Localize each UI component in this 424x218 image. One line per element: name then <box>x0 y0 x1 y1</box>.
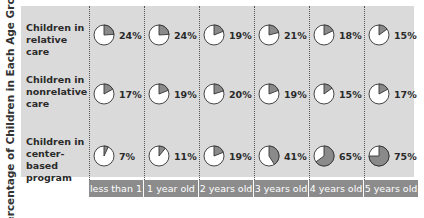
pie-icon <box>258 145 280 167</box>
pie-cell: 11% <box>144 141 199 171</box>
pie-icon <box>313 145 335 167</box>
percent-label: 65% <box>339 151 362 162</box>
pie-cell: 41% <box>254 141 309 171</box>
x-axis-label: 2 years old <box>199 180 253 197</box>
row-label: Children innonrelativecare <box>26 74 90 110</box>
percent-label: 20% <box>229 89 252 100</box>
pie-icon <box>203 24 225 46</box>
pie-icon <box>148 83 170 105</box>
percent-label: 21% <box>284 30 307 41</box>
pie-cell: 24% <box>89 20 144 50</box>
percent-label: 24% <box>119 30 142 41</box>
percent-label: 17% <box>394 89 417 100</box>
percent-label: 19% <box>284 89 307 100</box>
pie-icon <box>93 24 115 46</box>
pie-icon <box>368 83 390 105</box>
pie-icon <box>148 145 170 167</box>
pie-icon <box>258 24 280 46</box>
percent-label: 24% <box>174 30 197 41</box>
pie-cell: 20% <box>199 79 254 109</box>
percent-label: 19% <box>229 30 252 41</box>
pie-cell: 19% <box>254 79 309 109</box>
pie-cell: 75% <box>364 141 419 171</box>
percent-label: 75% <box>394 151 417 162</box>
pie-icon <box>313 24 335 46</box>
pie-cell: 19% <box>199 20 254 50</box>
percent-label: 11% <box>174 151 197 162</box>
x-axis-label: 1 year old <box>144 180 198 197</box>
pie-icon <box>368 24 390 46</box>
y-axis-label: Percentage of Children in Each Age Group… <box>0 0 20 218</box>
pie-cell: 17% <box>364 79 419 109</box>
pie-cell: 18% <box>309 20 364 50</box>
row-label: Children inrelative care <box>26 22 90 58</box>
pie-icon <box>203 83 225 105</box>
x-axis-label: 3 years old <box>254 180 308 197</box>
percent-label: 41% <box>284 151 307 162</box>
percent-label: 15% <box>394 30 417 41</box>
x-axis-label: 5 years old <box>364 180 418 197</box>
pie-cell: 19% <box>199 141 254 171</box>
percent-label: 15% <box>339 89 362 100</box>
pie-icon <box>148 24 170 46</box>
percent-label: 19% <box>174 89 197 100</box>
pie-cell: 15% <box>309 79 364 109</box>
pie-icon <box>313 83 335 105</box>
pie-cell: 15% <box>364 20 419 50</box>
pie-cell: 24% <box>144 20 199 50</box>
percent-label: 19% <box>229 151 252 162</box>
percent-label: 7% <box>119 151 135 162</box>
pie-icon <box>258 83 280 105</box>
pie-icon <box>203 145 225 167</box>
pie-icon <box>93 83 115 105</box>
row-label: Children incenter-basedprogram <box>26 136 90 184</box>
pie-cell: 21% <box>254 20 309 50</box>
pie-icon <box>93 145 115 167</box>
pie-cell: 65% <box>309 141 364 171</box>
pie-cell: 19% <box>144 79 199 109</box>
x-axis-label: less than 1 <box>89 180 143 197</box>
x-axis-label: 4 years old <box>309 180 363 197</box>
percent-label: 17% <box>119 89 142 100</box>
pie-cell: 7% <box>89 141 144 171</box>
percent-label: 18% <box>339 30 362 41</box>
pie-cell: 17% <box>89 79 144 109</box>
pie-icon <box>368 145 390 167</box>
